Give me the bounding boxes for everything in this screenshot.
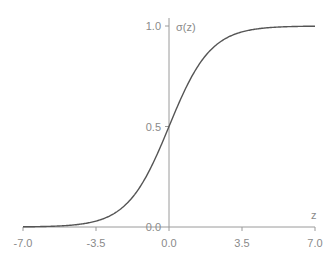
y-ticks: 0.00.51.0 bbox=[146, 20, 169, 233]
x-ticks: -7.0-3.50.03.57.0 bbox=[14, 227, 323, 249]
x-tick-label: 3.5 bbox=[234, 237, 249, 249]
y-axis-label: σ(z) bbox=[176, 21, 196, 33]
x-tick-label: -7.0 bbox=[14, 237, 33, 249]
x-tick-label: 7.0 bbox=[307, 237, 322, 249]
y-tick-label: 1.0 bbox=[146, 20, 161, 32]
y-tick-label: 0.0 bbox=[146, 221, 161, 233]
y-tick-label: 0.5 bbox=[146, 121, 161, 133]
x-axis-label: z bbox=[311, 209, 317, 221]
x-tick-label: 0.0 bbox=[161, 237, 176, 249]
x-tick-label: -3.5 bbox=[87, 237, 106, 249]
sigmoid-chart: -7.0-3.50.03.57.0 0.00.51.0 σ(z) z bbox=[0, 0, 335, 265]
